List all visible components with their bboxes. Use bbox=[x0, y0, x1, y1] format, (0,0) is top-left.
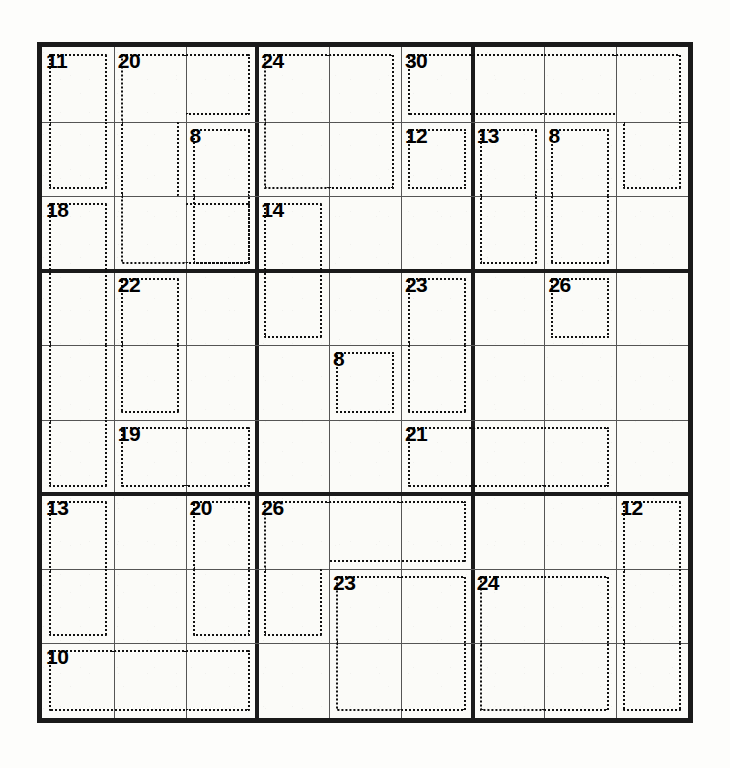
cage-sum-26-r7c4: 26 bbox=[261, 497, 283, 518]
cell-r2c9[interactable] bbox=[616, 122, 688, 197]
cell-r1c8[interactable] bbox=[544, 47, 616, 122]
cage-sum-12-r7c9: 12 bbox=[620, 497, 642, 518]
cell-r4c7[interactable] bbox=[473, 271, 545, 346]
cell-r2c5[interactable] bbox=[329, 122, 401, 197]
cell-r3c3[interactable] bbox=[186, 196, 258, 271]
cell-r8c2[interactable] bbox=[114, 569, 186, 644]
cell-r7c8[interactable] bbox=[544, 494, 616, 569]
cage-sum-14-r3c4: 14 bbox=[261, 199, 283, 220]
cell-r6c7[interactable] bbox=[473, 420, 545, 495]
cell-r3c2[interactable] bbox=[114, 196, 186, 271]
cell-r6c5[interactable] bbox=[329, 420, 401, 495]
cell-r1c9[interactable] bbox=[616, 47, 688, 122]
cage-sum-13-r2c7: 13 bbox=[477, 125, 499, 146]
cell-r7c2[interactable] bbox=[114, 494, 186, 569]
cell-r5c9[interactable] bbox=[616, 345, 688, 420]
cage-sum-20-r1c2: 20 bbox=[118, 50, 140, 71]
cell-r3c8[interactable] bbox=[544, 196, 616, 271]
cell-r3c5[interactable] bbox=[329, 196, 401, 271]
cell-r4c1[interactable] bbox=[42, 271, 114, 346]
cell-r4c4[interactable] bbox=[257, 271, 329, 346]
cage-sum-30-r1c6: 30 bbox=[405, 50, 427, 71]
cell-r5c8[interactable] bbox=[544, 345, 616, 420]
cell-r1c7[interactable] bbox=[473, 47, 545, 122]
cell-r9c2[interactable] bbox=[114, 643, 186, 718]
cage-sum-24-r8c7: 24 bbox=[477, 572, 499, 593]
cage-sum-8-r5c5: 8 bbox=[333, 348, 344, 369]
cage-sum-10-r9c1: 10 bbox=[46, 646, 68, 667]
cell-r6c4[interactable] bbox=[257, 420, 329, 495]
cell-r5c2[interactable] bbox=[114, 345, 186, 420]
cell-r1c5[interactable] bbox=[329, 47, 401, 122]
cell-r7c7[interactable] bbox=[473, 494, 545, 569]
page-root: 1120824301213818142223268192113202612232… bbox=[0, 0, 730, 768]
cell-r1c3[interactable] bbox=[186, 47, 258, 122]
cell-r8c6[interactable] bbox=[401, 569, 473, 644]
cage-sum-26-r4c8: 26 bbox=[548, 274, 570, 295]
cell-r6c9[interactable] bbox=[616, 420, 688, 495]
cell-r5c1[interactable] bbox=[42, 345, 114, 420]
cell-r3c6[interactable] bbox=[401, 196, 473, 271]
cell-r2c4[interactable] bbox=[257, 122, 329, 197]
cell-r9c6[interactable] bbox=[401, 643, 473, 718]
cell-r8c3[interactable] bbox=[186, 569, 258, 644]
cage-sum-22-r4c2: 22 bbox=[118, 274, 140, 295]
cell-r6c1[interactable] bbox=[42, 420, 114, 495]
cage-sum-23-r8c5: 23 bbox=[333, 572, 355, 593]
cell-r3c9[interactable] bbox=[616, 196, 688, 271]
cage-sum-23-r4c6: 23 bbox=[405, 274, 427, 295]
cell-r9c9[interactable] bbox=[616, 643, 688, 718]
cell-r9c3[interactable] bbox=[186, 643, 258, 718]
cell-r7c6[interactable] bbox=[401, 494, 473, 569]
cage-sum-12-r2c6: 12 bbox=[405, 125, 427, 146]
killer-sudoku-grid[interactable]: 1120824301213818142223268192113202612232… bbox=[37, 42, 693, 723]
cell-r4c9[interactable] bbox=[616, 271, 688, 346]
cell-r8c4[interactable] bbox=[257, 569, 329, 644]
cell-r5c7[interactable] bbox=[473, 345, 545, 420]
cell-r8c1[interactable] bbox=[42, 569, 114, 644]
cage-sum-18-r3c1: 18 bbox=[46, 199, 68, 220]
cell-r9c5[interactable] bbox=[329, 643, 401, 718]
cell-r4c3[interactable] bbox=[186, 271, 258, 346]
cage-sum-19-r6c2: 19 bbox=[118, 423, 140, 444]
cell-r2c2[interactable] bbox=[114, 122, 186, 197]
cage-sum-21-r6c6: 21 bbox=[405, 423, 427, 444]
cell-r5c4[interactable] bbox=[257, 345, 329, 420]
cell-r9c4[interactable] bbox=[257, 643, 329, 718]
cell-r5c3[interactable] bbox=[186, 345, 258, 420]
cage-sum-8-r2c3: 8 bbox=[190, 125, 201, 146]
cell-r6c8[interactable] bbox=[544, 420, 616, 495]
cage-sum-20-r7c3: 20 bbox=[190, 497, 212, 518]
cage-sum-8-r2c8: 8 bbox=[548, 125, 559, 146]
cell-r8c8[interactable] bbox=[544, 569, 616, 644]
cell-r2c1[interactable] bbox=[42, 122, 114, 197]
cell-r6c3[interactable] bbox=[186, 420, 258, 495]
cage-sum-13-r7c1: 13 bbox=[46, 497, 68, 518]
cell-r8c9[interactable] bbox=[616, 569, 688, 644]
cell-r9c7[interactable] bbox=[473, 643, 545, 718]
cell-r3c7[interactable] bbox=[473, 196, 545, 271]
cage-sum-11-r1c1: 11 bbox=[46, 50, 67, 71]
cell-r9c8[interactable] bbox=[544, 643, 616, 718]
cell-r7c5[interactable] bbox=[329, 494, 401, 569]
cell-r5c6[interactable] bbox=[401, 345, 473, 420]
cell-r4c5[interactable] bbox=[329, 271, 401, 346]
cage-sum-24-r1c4: 24 bbox=[261, 50, 283, 71]
